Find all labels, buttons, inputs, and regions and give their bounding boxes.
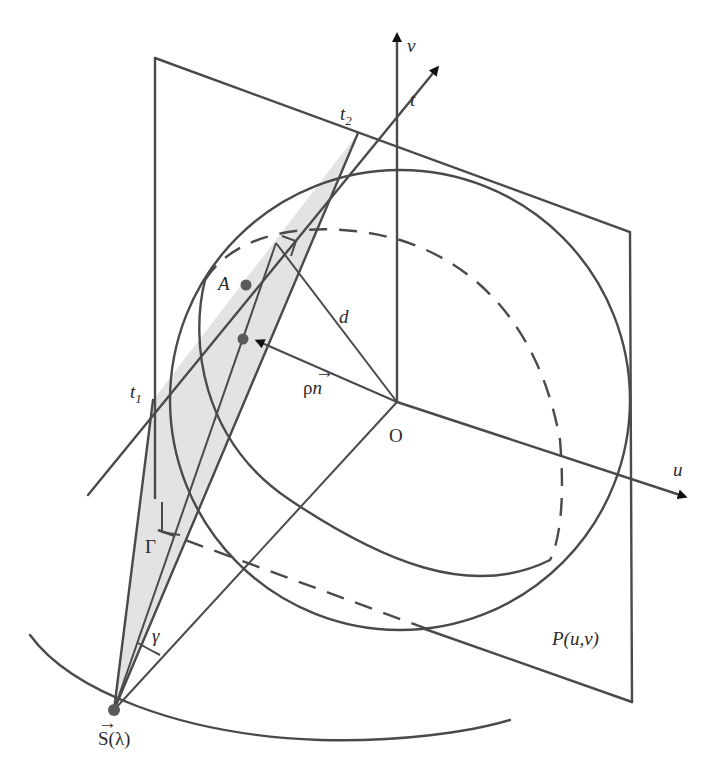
label-plane: P(u,v)	[551, 628, 599, 650]
label-Gamma: Γ	[145, 536, 156, 557]
label-gamma: γ	[152, 625, 160, 646]
d-line	[276, 243, 397, 402]
label-origin: O	[389, 425, 403, 446]
point-A	[241, 280, 252, 291]
label-v-axis: v	[407, 35, 416, 56]
gamma-dashed-line	[158, 530, 430, 630]
label-d: d	[339, 306, 349, 327]
source-to-foot	[114, 243, 276, 710]
label-n-vector-arrow: →	[315, 361, 334, 382]
label-A: A	[216, 273, 230, 294]
point-rho-n	[238, 334, 249, 345]
geometry-diagram: v t t2 t1 A d ρn → O u Γ γ P(u,v) → S(λ)	[0, 0, 718, 760]
label-t-axis: t	[410, 89, 416, 110]
label-source: S(λ)	[98, 728, 130, 750]
u-axis	[397, 402, 680, 495]
detector-plane-bottom-edge	[422, 628, 632, 702]
label-t2: t2	[340, 103, 352, 128]
label-t1: t1	[130, 381, 142, 406]
label-u-axis: u	[673, 459, 683, 480]
